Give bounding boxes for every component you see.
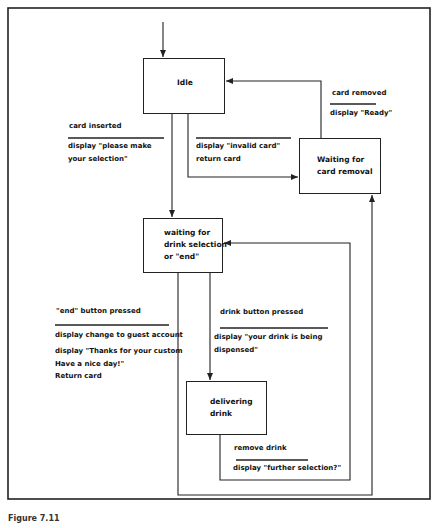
- card-removed-event: card removed: [332, 87, 386, 100]
- drink-pressed-event: drink button pressed: [220, 306, 303, 319]
- remove-drink-action: display "further selection?": [233, 462, 341, 475]
- state-delivering-drink: delivering drink: [186, 381, 267, 435]
- end-pressed-action: display change to guest account: [55, 329, 183, 342]
- figure-caption: Figure 7.11: [8, 514, 60, 523]
- card-removed-action: display "Ready": [330, 107, 392, 120]
- drink-pressed-action: display "your drink is being dispensed": [214, 331, 322, 356]
- end-pressed-event: "end" button pressed: [56, 305, 141, 318]
- state-idle: Idle: [143, 58, 225, 114]
- state-delivering-drink-label: delivering drink: [210, 396, 253, 420]
- invalid-card-action: display "invalid card" return card: [196, 140, 280, 165]
- state-waiting-card-removal: Waiting for card removal: [299, 138, 381, 194]
- end-pressed-action-2: display "Thanks for your custom Have a n…: [55, 345, 183, 383]
- card-inserted-action: display "please make your selection": [68, 140, 152, 165]
- state-waiting-card-removal-label: Waiting for card removal: [317, 154, 372, 178]
- state-waiting-drink-selection: waiting for drink selection or "end": [143, 218, 223, 273]
- remove-drink-event: remove drink: [234, 442, 287, 455]
- state-waiting-drink-selection-label: waiting for drink selection or "end": [164, 227, 227, 263]
- card-removed-arrow: [226, 81, 321, 138]
- card-inserted-event: card inserted: [69, 120, 122, 133]
- state-idle-label: Idle: [177, 77, 193, 89]
